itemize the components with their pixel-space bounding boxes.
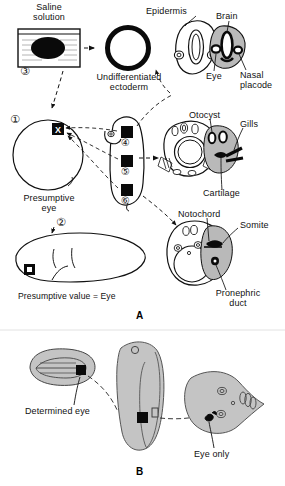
label-eye: Eye <box>206 71 222 81</box>
determined-eye-donor-group <box>30 349 95 386</box>
label-otocyst: Otocyst <box>189 110 220 120</box>
step-number-5: ⑤ <box>121 167 130 177</box>
label-epidermis: Epidermis <box>146 6 187 16</box>
undifferentiated-ectoderm-ball <box>108 28 149 69</box>
arrow-to-neurula <box>52 227 54 233</box>
host-graft-marker <box>137 412 148 423</box>
saline-dish-group <box>18 29 80 67</box>
panel-letter-b: B <box>136 466 144 477</box>
label-notochord: Notochord <box>178 209 220 219</box>
label-determined-eye: Determined eye <box>25 406 90 416</box>
brain-shape <box>222 32 233 58</box>
neurula-outline <box>16 233 145 282</box>
label-eye-only: Eye only <box>194 449 229 459</box>
host-tailbud-group <box>117 342 164 450</box>
step-number-6: ⑥ <box>121 196 130 206</box>
result-embryo-outline <box>185 372 264 434</box>
otocyst-shape <box>209 133 216 143</box>
step-number-1: ① <box>10 114 20 124</box>
trunk-cross-section-lower-group <box>167 221 232 285</box>
panel-letter-a: A <box>136 310 144 321</box>
neurula-lateral-group <box>16 233 145 282</box>
label-pronephric-duct: Pronephric duct <box>203 288 273 308</box>
arrow-site6-to-trunk <box>143 196 176 225</box>
label-cartilage: Cartilage <box>203 188 240 198</box>
label-somite: Somite <box>240 220 269 230</box>
label-saline-solution: Saline solution <box>14 2 84 22</box>
pronephric-duct-shape <box>214 259 217 262</box>
label-gills: Gills <box>240 119 258 129</box>
label-undifferentiated-ectoderm: Undifferentiated ectoderm <box>86 72 172 92</box>
label-brain: Brain <box>216 11 238 21</box>
label-nasal-placode: Nasal placode <box>240 70 272 90</box>
head-cross-section-group <box>174 21 245 74</box>
nasal-placode-shape <box>234 47 242 54</box>
explant-in-saline <box>31 37 65 59</box>
determined-eye-graft-marker <box>76 365 86 375</box>
step-number-3: ③ <box>20 66 30 76</box>
trunk-cross-section-upper-group <box>158 121 243 176</box>
arrow-blastula-to-dish <box>52 71 63 108</box>
result-embryo-group <box>185 372 264 434</box>
step-number-4: ④ <box>121 138 130 148</box>
grafted-trunk-tissue-lower <box>201 226 232 280</box>
label-presumptive-value: Presumptive value = Eye <box>18 291 116 301</box>
figure-canvas: X <box>0 0 285 486</box>
label-presumptive-eye: Presumptive eye <box>12 193 86 213</box>
eye-shape <box>212 45 221 52</box>
presumptive-eye-marker-neurula <box>27 267 32 272</box>
step-number-2: ② <box>56 217 66 227</box>
host-tailbud-eye <box>131 346 138 353</box>
svg-text:X: X <box>55 125 61 135</box>
blastula-group: X <box>13 120 83 190</box>
